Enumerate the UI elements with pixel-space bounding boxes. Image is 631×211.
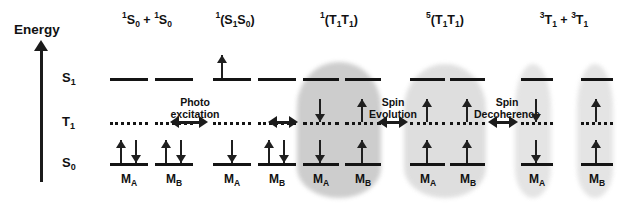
level-line-col5-mb-s0: [581, 163, 613, 166]
process-label-line1: Spin: [496, 96, 519, 108]
state-label-s1: S1: [62, 70, 76, 87]
level-line-col3-mb-s0: [345, 163, 381, 166]
spin-arrow-down-col5-ma-t1: [531, 99, 542, 122]
spin-arrow-up-col2-ma-s1: [217, 55, 228, 78]
level-line-col3-mb-t1: [345, 122, 381, 125]
level-line-col4-mb-s1: [450, 78, 485, 81]
spin-arrow-down-col1-ma-s0: [131, 140, 142, 163]
level-line-col2-ma-s0: [213, 163, 251, 166]
spin-arrow-up-col4-ma-s0: [422, 140, 433, 163]
column-header-col-3: 1(T1T1): [289, 8, 389, 31]
transition-arrow-proc-4: [488, 116, 518, 128]
spin-arrow-up-col4-mb-s0: [462, 140, 473, 163]
spin-arrow-up-col3-mb-s0: [357, 140, 368, 163]
spin-arrow-down-col2-ma-s0: [227, 140, 238, 163]
level-line-col5-ma-t1: [521, 122, 553, 125]
level-line-col2-mb-s0: [258, 163, 296, 166]
level-line-col1-mb-s0: [155, 163, 193, 166]
spin-arrow-up-col5-mb-s0: [591, 140, 602, 163]
level-line-col1-ma-t1: [110, 122, 148, 125]
spin-arrow-down-col5-ma-s0: [531, 140, 542, 163]
level-line-col1-mb-s1: [155, 78, 193, 81]
level-line-col5-ma-s1: [521, 78, 553, 81]
energy-axis-label: Energy: [14, 22, 60, 37]
level-line-col3-mb-s1: [345, 78, 381, 81]
state-label-t1: T1: [62, 114, 75, 131]
molecule-label-col2-mb: MB: [252, 172, 302, 188]
level-line-col4-mb-s0: [450, 163, 485, 166]
level-line-col1-ma-s0: [110, 163, 148, 166]
transition-arrow-proc-2: [268, 116, 298, 128]
process-label-line1: Photo: [180, 96, 210, 108]
level-line-col3-ma-s1: [303, 78, 339, 81]
spin-arrow-down-col2-mb-s0: [279, 140, 290, 163]
level-line-col2-mb-s1: [258, 78, 296, 81]
spin-arrow-down-col1-mb-s0: [176, 140, 187, 163]
level-line-col4-ma-s0: [410, 163, 445, 166]
state-label-s0: S0: [62, 155, 76, 172]
spin-arrow-up-col4-ma-t1: [422, 99, 433, 122]
molecule-label-col4-mb: MB: [443, 172, 493, 188]
level-line-col2-ma-s1: [213, 78, 251, 81]
level-line-col5-mb-s1: [581, 78, 613, 81]
spin-arrow-up-col5-mb-t1: [591, 99, 602, 122]
level-line-col4-mb-t1: [450, 122, 485, 125]
column-header-col-4: 5(T1T1): [395, 8, 495, 31]
level-line-col5-mb-t1: [581, 122, 613, 125]
level-line-col4-ma-t1: [410, 122, 445, 125]
level-line-col3-ma-t1: [303, 122, 339, 125]
level-line-col1-ma-s1: [110, 78, 148, 81]
column-header-col-2: 1(S1S0): [185, 8, 285, 31]
level-line-col2-ma-t1: [213, 122, 251, 125]
molecule-label-col2-ma: MA: [207, 172, 257, 188]
level-line-col3-ma-s0: [303, 163, 339, 166]
molecule-label-col3-mb: MB: [338, 172, 388, 188]
spin-arrow-up-col2-mb-s0: [264, 140, 275, 163]
figure-canvas: Energy S1 T1 S0 1S0 + 1S0 1(S1S0) 1(T1T1…: [0, 0, 631, 211]
molecule-label-col5-mb: MB: [572, 172, 622, 188]
transition-arrow-proc-1: [170, 116, 208, 128]
spin-arrow-up-col1-mb-s0: [161, 140, 172, 163]
level-line-col5-ma-s0: [521, 163, 553, 166]
transition-arrow-proc-3: [378, 116, 408, 128]
energy-axis-line: [40, 46, 43, 182]
spin-arrow-down-col3-ma-s0: [315, 140, 326, 163]
column-header-col-1: 1S0 + 1S0: [97, 8, 197, 31]
molecule-label-col1-mb: MB: [149, 172, 199, 188]
spin-arrow-up-col1-ma-s0: [116, 140, 127, 163]
process-label-line1: Spin: [382, 96, 405, 108]
molecule-label-col1-ma: MA: [104, 172, 154, 188]
molecule-label-col5-ma: MA: [512, 172, 562, 188]
level-line-col4-ma-s1: [410, 78, 445, 81]
column-header-col-5: 3T1 + 3T1: [514, 8, 614, 31]
spin-arrow-down-col3-ma-t1: [315, 99, 326, 122]
